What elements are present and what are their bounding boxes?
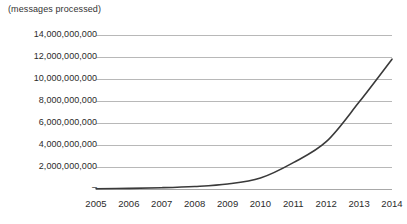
x-axis-tick-label: 2013 [343,198,376,209]
y-axis-tick-label: 4,000,000,000 [39,139,97,149]
x-axis-tick-label: 2007 [145,198,178,209]
x-axis-tick-label: 2014 [376,198,407,209]
x-axis-tick-label: 2010 [244,198,277,209]
y-axis-tick-label: 14,000,000,000 [34,29,97,39]
x-axis-tick-label: 2005 [80,198,113,209]
x-axis-tick-label: 2006 [112,198,145,209]
y-axis-zero-tick-label: – [92,182,97,192]
y-axis-tick-label: 8,000,000,000 [39,95,97,105]
x-axis-tick-label: 2011 [277,198,310,209]
y-axis-tick-label: 10,000,000,000 [34,73,97,83]
y-axis-tick-label: 6,000,000,000 [39,117,97,127]
x-axis-tick-label: 2009 [211,198,244,209]
x-axis-tick-label: 2012 [310,198,343,209]
x-axis-tick-label: 2008 [178,198,211,209]
y-axis-tick-label: 2,000,000,000 [39,161,97,171]
y-axis-tick-label: 12,000,000,000 [34,51,97,61]
